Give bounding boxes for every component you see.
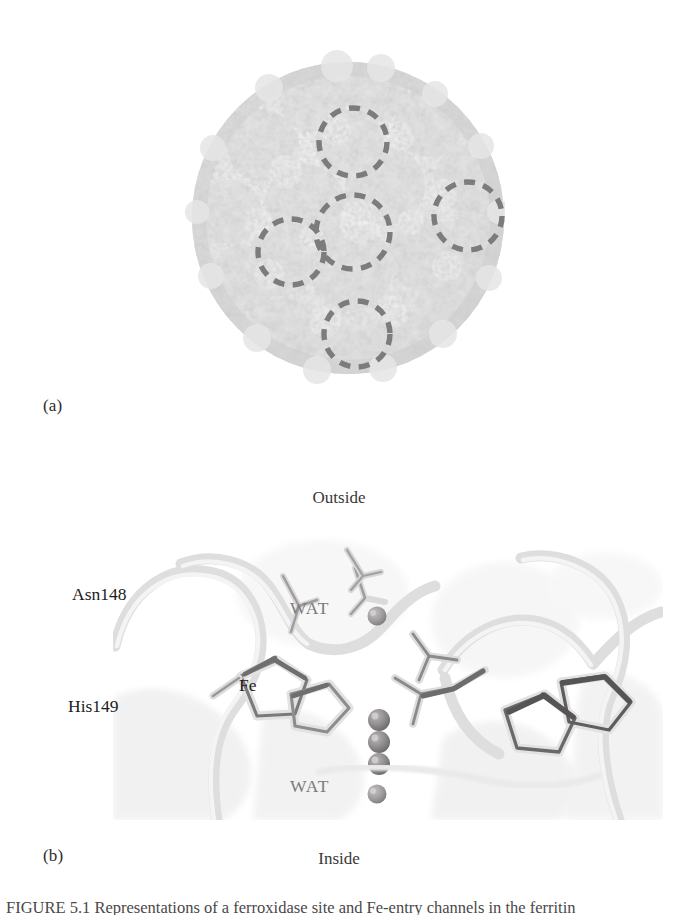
water-label-lower: WAT <box>290 776 330 797</box>
panel-b-ferroxidase-site: Asn148 His149 Fe WAT WAT (b) <box>0 520 678 825</box>
water-oxygen-lower <box>368 785 387 804</box>
orientation-label-outside: Outside <box>0 488 678 508</box>
water-label-upper: WAT <box>290 598 330 619</box>
residue-label-his149: His149 <box>68 696 119 717</box>
ferroxidase-site-svg <box>113 528 663 820</box>
panel-a-ferritin-shell: (a) <box>0 18 678 398</box>
residue-label-asn148: Asn148 <box>72 584 126 605</box>
ferritin-shell-image <box>185 26 505 398</box>
iron-atom-2 <box>368 731 390 753</box>
panel-a-label: (a) <box>43 396 62 416</box>
figure-ferritin-ferroxidase: (a) Outside <box>0 0 678 915</box>
water-oxygen-upper <box>368 607 387 626</box>
iron-atom-1 <box>368 709 390 731</box>
figure-caption: FIGURE 5.1 Representations of a ferroxid… <box>6 898 678 915</box>
metal-label-fe: Fe <box>239 675 257 696</box>
ferritin-shell-svg <box>185 26 505 398</box>
ferroxidase-site-image <box>113 528 663 820</box>
orientation-label-inside: Inside <box>0 849 678 869</box>
